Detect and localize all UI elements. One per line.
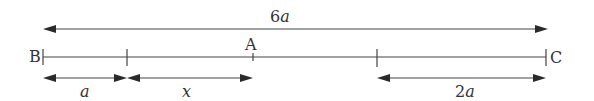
arrowhead-right-total [535, 25, 548, 33]
dimension-total: 6a [43, 7, 548, 33]
dimension-a: a [43, 74, 127, 101]
dimension-2a: 2a [377, 74, 546, 101]
label-a: a [80, 82, 90, 101]
segment-bc: B A C [29, 35, 562, 67]
arrowhead-left-2a [377, 74, 390, 82]
point-label-b: B [29, 47, 41, 66]
label-x: x [182, 82, 191, 101]
arrowhead-left-x [127, 74, 140, 82]
dimension-x: x [127, 74, 253, 101]
label-total: 6a [270, 7, 290, 26]
arrowhead-left-a [43, 74, 56, 82]
arrowhead-right-a [114, 74, 127, 82]
arrowhead-right-x [240, 74, 253, 82]
point-label-c: C [550, 48, 562, 67]
arrowhead-left-total [43, 25, 56, 33]
arrowhead-right-2a [533, 74, 546, 82]
line-segment-diagram: 6a B A C a x 2a [0, 0, 594, 101]
point-label-a: A [244, 35, 257, 54]
label-2a: 2a [455, 82, 475, 101]
